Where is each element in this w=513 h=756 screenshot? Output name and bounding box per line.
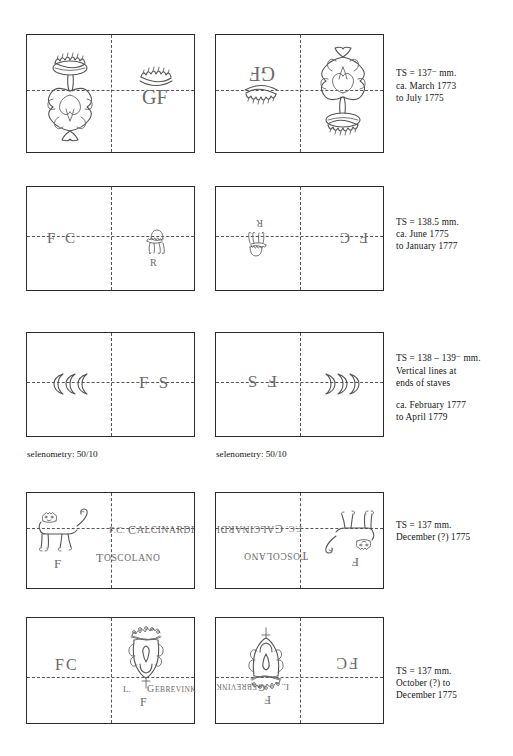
watermark-letter-f-mirrored-row4: F xyxy=(340,553,360,573)
svg-text:F S: F S xyxy=(139,373,171,392)
svg-text:L.: L. xyxy=(123,684,131,694)
description-spacer xyxy=(396,389,513,399)
description-row-3: TS = 138 – 139− mm. Vertical lines at en… xyxy=(396,350,513,423)
ts-value: TS = 137 mm. xyxy=(396,666,452,676)
watermark-plate: GF GF xyxy=(0,0,513,756)
svg-text:OSCOLANO: OSCOLANO xyxy=(104,553,161,563)
fold-line-vertical xyxy=(300,187,301,290)
plate-row-2: F C R xyxy=(0,186,513,292)
svg-text:F C: F C xyxy=(47,230,78,246)
note-line-1: Vertical lines at xyxy=(396,365,513,377)
watermark-crown-r: R xyxy=(139,223,175,267)
svg-text:F.C.: F.C. xyxy=(109,525,125,535)
ts-line-row3: TS = 138 – 139− mm. xyxy=(396,350,513,365)
ts-line-row4: TS = 137 mm. xyxy=(396,519,513,531)
ts-superscript: − xyxy=(432,66,437,76)
watermark-crowned-fleur-shield xyxy=(39,43,109,143)
plate-row-5: FC xyxy=(0,617,513,725)
watermark-text-gebrevink: L. G EBREVINK xyxy=(123,680,199,696)
ts-value: TS = 137 mm. xyxy=(396,520,452,530)
watermark-letter-f-row5: F xyxy=(139,691,157,711)
watermark-gf-crowned-mirrored: GF xyxy=(232,60,282,108)
description-row-2: TS = 138.5 mm. ca. June 1775 to January … xyxy=(396,216,513,253)
watermark-text-toscolano-mirrored: T OSCOLANO xyxy=(238,548,308,566)
sheet-recto-row4: F F.C. C ALCINARDI T OSCOLANO xyxy=(26,492,195,589)
watermark-letters-fc-row2: F C xyxy=(47,227,95,249)
svg-text:GF: GF xyxy=(249,63,275,85)
selenometry-right: selenometry: 50/10 xyxy=(216,449,287,459)
svg-text:F: F xyxy=(140,695,147,709)
svg-text:EBREVINK: EBREVINK xyxy=(155,685,196,694)
ts-line-row2: TS = 138.5 mm. xyxy=(396,216,513,228)
date-line-1: ca. June 1775 xyxy=(396,228,513,240)
watermark-letters-fc-row5: FC xyxy=(55,652,99,676)
svg-text:F C: F C xyxy=(337,230,368,246)
fold-line-vertical xyxy=(111,333,112,436)
fold-line-vertical xyxy=(300,35,301,152)
fold-line-vertical xyxy=(300,333,301,436)
watermark-text-gebrevink-mirrored: L. G EBREVINK xyxy=(213,680,289,696)
date-line-1: ca. March 1773 xyxy=(396,80,513,92)
watermark-text-calcinardi-mirrored: F.C. C ALCINARDI xyxy=(210,521,302,539)
ts-unit: mm. xyxy=(463,353,480,363)
fold-line-vertical xyxy=(300,618,301,723)
svg-text:C: C xyxy=(128,523,137,537)
ts-value: TS = 138.5 mm. xyxy=(396,217,459,227)
sheet-verso-row2: R F C xyxy=(215,186,384,291)
date-line-2: to January 1777 xyxy=(396,240,513,252)
ts-value: TS = 138 – 139 xyxy=(396,353,456,363)
fold-line-vertical xyxy=(111,493,112,588)
watermark-three-crescents-mirrored xyxy=(314,371,362,397)
selenometry-left: selenometry: 50/10 xyxy=(27,449,98,459)
description-row-4: TS = 137 mm. December (?) 1775 xyxy=(396,519,513,543)
sheet-recto-row1: GF xyxy=(26,34,195,153)
watermark-letters-fc-mirrored-row2: F C xyxy=(320,227,368,249)
ts-line-row1: TS = 137− mm. xyxy=(396,65,513,80)
svg-text:T: T xyxy=(96,551,104,565)
svg-text:ALCINARDI: ALCINARDI xyxy=(216,524,274,534)
svg-text:ALCINARDI: ALCINARDI xyxy=(137,525,195,535)
svg-text:T: T xyxy=(300,549,308,563)
svg-text:C: C xyxy=(274,522,283,536)
watermark-gf-crowned: GF xyxy=(135,63,185,111)
svg-text:F: F xyxy=(54,556,61,571)
fold-line-vertical xyxy=(111,187,112,290)
watermark-text-calcinardi: F.C. C ALCINARDI xyxy=(109,520,201,538)
watermark-lion-mirrored xyxy=(320,509,378,553)
watermark-three-crescents xyxy=(51,371,99,397)
sheet-verso-row4: F.C. C ALCINARDI T OSCOLANO xyxy=(215,492,384,589)
svg-text:L.: L. xyxy=(281,682,289,692)
sheet-recto-row5: FC xyxy=(26,617,195,724)
watermark-crowned-fleur-shield-mirrored xyxy=(304,45,374,145)
svg-text:FC: FC xyxy=(334,655,358,672)
plate-row-3: F S F S TS = 138 – 139− mm. xyxy=(0,332,513,438)
watermark-lion xyxy=(35,509,93,553)
fold-line-vertical xyxy=(111,618,112,723)
date-line-1: ca. February 1777 xyxy=(396,399,513,411)
watermark-letter-f-mirrored-row5: F xyxy=(254,691,272,711)
plate-row-1: GF GF xyxy=(0,34,513,154)
sheet-recto-row2: F C R xyxy=(26,186,195,291)
watermark-letters-fc-mirrored-row5: FC xyxy=(314,652,358,676)
date-line-1: December (?) 1775 xyxy=(396,531,513,543)
watermark-letters-fs-mirrored: F S xyxy=(231,369,277,395)
svg-text:F S: F S xyxy=(245,372,277,391)
svg-text:EBREVINK: EBREVINK xyxy=(216,682,257,691)
description-row-5: TS = 137 mm. October (?) to December 177… xyxy=(396,665,513,702)
sheet-verso-row1: GF xyxy=(215,34,384,153)
date-line-1: October (?) to xyxy=(396,677,513,689)
svg-text:OSCOLANO: OSCOLANO xyxy=(243,551,300,561)
date-line-2: December 1775 xyxy=(396,689,513,701)
date-line-2: to July 1775 xyxy=(396,92,513,104)
watermark-crown-r-mirrored: R xyxy=(238,219,274,263)
fold-line-vertical xyxy=(300,493,301,588)
ts-value: TS = 137 xyxy=(396,68,432,78)
ts-superscript: − xyxy=(456,351,461,361)
description-row-1: TS = 137− mm. ca. March 1773 to July 177… xyxy=(396,65,513,104)
ts-unit: mm. xyxy=(439,68,456,78)
svg-text:FC: FC xyxy=(55,656,79,673)
date-line-2: to April 1779 xyxy=(396,411,513,423)
svg-text:F.C.: F.C. xyxy=(286,524,302,534)
note-line-2: ends of staves xyxy=(396,377,513,389)
watermark-letter-f-row4: F xyxy=(53,553,73,573)
